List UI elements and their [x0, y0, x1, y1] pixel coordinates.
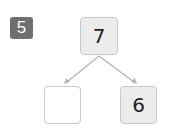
whole-box: 7	[80, 17, 118, 55]
part-box-given: 6	[120, 86, 157, 124]
part-box-blank[interactable]	[44, 86, 81, 124]
arrow-left-line	[67, 56, 99, 82]
arrow-right-line	[99, 56, 134, 82]
